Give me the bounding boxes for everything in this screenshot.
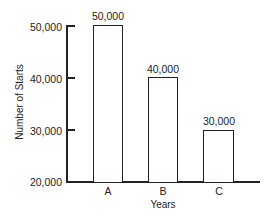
bar-a — [93, 25, 123, 182]
y-tick-50000 — [66, 25, 75, 27]
y-axis — [66, 25, 68, 182]
x-axis-title: Years — [150, 199, 175, 210]
y-tick-label: 50,000 — [4, 21, 62, 33]
y-tick-label: 20,000 — [4, 176, 62, 188]
x-tick-label: C — [204, 185, 234, 197]
bar-value-label: 40,000 — [133, 63, 193, 75]
y-axis-title: Number of Starts — [14, 64, 25, 140]
x-tick-label: A — [93, 185, 123, 197]
x-tick-label: B — [148, 185, 178, 197]
bar-b — [148, 77, 178, 182]
y-tick-40000 — [66, 77, 75, 79]
y-tick-30000 — [66, 129, 75, 131]
bar-value-label: 30,000 — [189, 115, 249, 127]
bar-value-label: 50,000 — [78, 10, 138, 22]
bar-c — [203, 130, 234, 182]
